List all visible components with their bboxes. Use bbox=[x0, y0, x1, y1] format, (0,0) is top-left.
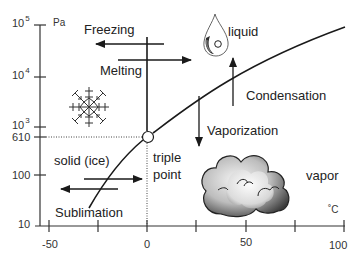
freezing-label: Freezing bbox=[84, 23, 135, 36]
x-tick-50: 50 bbox=[240, 237, 252, 248]
triple-point-label-line1: triple bbox=[153, 151, 181, 164]
triple-point-marker bbox=[143, 132, 154, 143]
sublimation-curve bbox=[89, 140, 143, 208]
x-axis-unit: ˚C bbox=[328, 205, 339, 215]
vaporization-label: Vaporization bbox=[207, 124, 278, 137]
diagram-graphics bbox=[0, 0, 356, 258]
solid-region-label: solid (ice) bbox=[54, 154, 110, 167]
melting-label: Melting bbox=[100, 64, 142, 77]
triple-point-label-line2: point bbox=[153, 168, 181, 181]
snowflake-icon bbox=[69, 87, 109, 127]
y-tick-100: 100 bbox=[12, 170, 30, 181]
vapor-region-label: vapor bbox=[306, 169, 339, 182]
condensation-label: Condensation bbox=[246, 89, 326, 102]
liquid-region-label: liquid bbox=[228, 25, 258, 38]
cloud-icon bbox=[202, 156, 289, 217]
y-tick-1e5: 105 bbox=[12, 16, 30, 29]
y-tick-10: 10 bbox=[18, 219, 30, 230]
y-axis bbox=[34, 25, 46, 226]
x-axis bbox=[35, 220, 345, 232]
x-tick-0: 0 bbox=[144, 239, 150, 250]
vaporization-curve bbox=[153, 27, 345, 133]
y-axis-unit: Pa bbox=[53, 18, 65, 28]
sublimation-label: Sublimation bbox=[55, 206, 123, 219]
water-drop-icon bbox=[204, 14, 228, 56]
y-tick-610: 610 bbox=[12, 132, 30, 143]
y-tick-1e3: 103 bbox=[12, 118, 30, 131]
x-tick-100: 100 bbox=[329, 240, 347, 251]
x-tick-minus-50: -50 bbox=[42, 239, 58, 250]
phase-diagram: 105 104 103 610 100 10 Pa -50 0 50 100 ˚… bbox=[0, 0, 356, 258]
y-tick-1e4: 104 bbox=[12, 68, 30, 81]
